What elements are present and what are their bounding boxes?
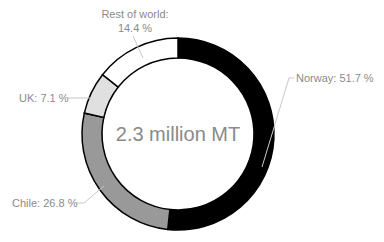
- label-norway: Norway: 51.7 %: [296, 71, 374, 85]
- label-uk: UK: 7.1 %: [19, 91, 69, 105]
- slice-rest-of-world: [103, 38, 178, 87]
- label-rest-of-world: Rest of world: 14.4 %: [96, 7, 174, 35]
- label-rest-of-world-line2: 14.4 %: [96, 21, 174, 35]
- label-rest-of-world-line1: Rest of world:: [96, 7, 174, 21]
- label-chile: Chile: 26.8 %: [12, 196, 77, 210]
- center-total-label: 2.3 million MT: [116, 122, 240, 146]
